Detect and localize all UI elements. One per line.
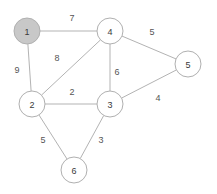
- graph-node-1[interactable]: 1: [14, 18, 40, 44]
- graph-node-3[interactable]: 3: [97, 91, 123, 117]
- node-label: 2: [29, 100, 34, 110]
- graph-svg-canvas: 798265453 123456: [0, 0, 217, 194]
- edge-weight-label: 5: [40, 135, 45, 145]
- edge-weight-label: 5: [149, 27, 154, 37]
- edge-weight-label: 4: [155, 93, 160, 103]
- edge-weight-label: 3: [98, 135, 103, 145]
- edge-weight-label: 7: [69, 13, 74, 23]
- edge-weight-label: 9: [14, 65, 19, 75]
- node-label: 5: [185, 60, 190, 70]
- edge-weight-label: 6: [114, 67, 119, 77]
- node-label: 4: [107, 27, 112, 37]
- node-label: 1: [24, 27, 29, 37]
- nodes-layer: 123456: [14, 18, 201, 183]
- node-label: 6: [71, 166, 76, 176]
- graph-node-2[interactable]: 2: [19, 91, 45, 117]
- edge-weight-label: 2: [69, 87, 74, 97]
- graph-node-5[interactable]: 5: [175, 51, 201, 77]
- graph-diagram: 798265453 123456: [0, 0, 217, 194]
- edge-weight-label: 8: [54, 53, 59, 63]
- graph-edge: [122, 36, 176, 59]
- graph-edge: [122, 70, 177, 98]
- graph-node-6[interactable]: 6: [61, 157, 87, 183]
- graph-node-4[interactable]: 4: [97, 18, 123, 44]
- node-label: 3: [107, 100, 112, 110]
- graph-edge: [28, 44, 31, 91]
